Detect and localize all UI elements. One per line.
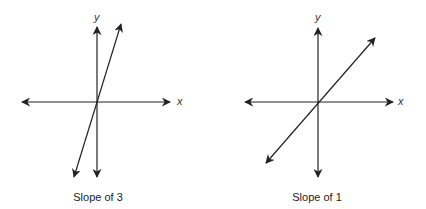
graph-slope-1 [245,28,393,177]
slope-line [266,38,375,163]
caption-slope-1: Slope of 1 [292,191,342,203]
graph-slope-3 [22,24,170,177]
x-axis-label: x [177,95,183,107]
y-axis-label: y [315,11,321,23]
x-axis-label: x [398,95,404,107]
caption-slope-3: Slope of 3 [73,191,123,203]
slope-diagrams [0,0,426,209]
y-axis-label: y [94,11,100,23]
